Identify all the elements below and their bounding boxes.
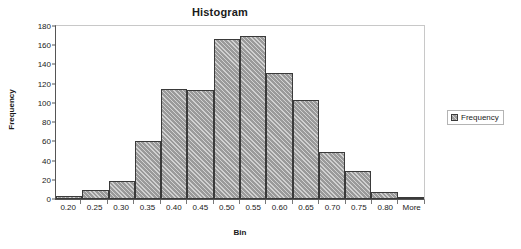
x-axis-tick-label: 0.75 (346, 203, 372, 212)
x-axis-tick-label: 0.20 (55, 203, 81, 212)
histogram-bar[interactable] (82, 190, 108, 199)
x-axis-tick-label: 0.30 (108, 203, 134, 212)
x-axis-tick-label: More (398, 203, 424, 212)
y-axis-tick-label: 120 (38, 79, 51, 88)
x-axis-tick-label: 0.70 (319, 203, 345, 212)
bar-slot (135, 26, 161, 199)
bar-slot (187, 26, 213, 199)
x-axis-tick-label: 0.25 (81, 203, 107, 212)
legend-label: Frequency (461, 113, 499, 122)
histogram-bar[interactable] (345, 171, 371, 199)
x-axis-tick-label: 0.60 (266, 203, 292, 212)
histogram-bar[interactable] (398, 197, 424, 199)
histogram-bar[interactable] (56, 196, 82, 199)
y-axis-tick-label: 160 (38, 41, 51, 50)
bar-slot (398, 26, 424, 199)
bar-slot (266, 26, 292, 199)
histogram-bar[interactable] (109, 181, 135, 199)
bar-slot (293, 26, 319, 199)
bar-slot (109, 26, 135, 199)
y-axis-tick-label: 100 (38, 98, 51, 107)
histogram-bar[interactable] (319, 152, 345, 199)
y-axis-tick-label: 20 (42, 175, 51, 184)
chart-legend: Frequency (447, 110, 504, 125)
x-axis-tick-label: 0.65 (293, 203, 319, 212)
y-axis-tick-label: 180 (38, 22, 51, 31)
histogram-bar[interactable] (293, 100, 319, 199)
histogram-bar[interactable] (266, 73, 292, 199)
bar-slot (161, 26, 187, 199)
x-axis-tick-label: 0.40 (161, 203, 187, 212)
y-axis-tick-label: 140 (38, 60, 51, 69)
x-axis-tick-label: 0.55 (240, 203, 266, 212)
y-axis-tick-label: 60 (42, 137, 51, 146)
histogram-bar[interactable] (240, 36, 266, 199)
bars-layer (56, 26, 424, 199)
histogram-bar[interactable] (214, 39, 240, 199)
bar-slot (240, 26, 266, 199)
bar-slot (371, 26, 397, 199)
y-axis-tick-label: 0 (47, 195, 51, 204)
x-axis-tick-label: 0.35 (134, 203, 160, 212)
x-axis-tick-label: 0.45 (187, 203, 213, 212)
x-axis-tick-label: 0.50 (214, 203, 240, 212)
y-axis-tick-label: 40 (42, 156, 51, 165)
histogram-bar[interactable] (371, 192, 397, 199)
histogram-bar[interactable] (135, 141, 161, 199)
x-axis-tick-labels: 0.200.250.300.350.400.450.500.550.600.65… (55, 203, 425, 212)
plot-area: 020406080100120140160180 (55, 25, 425, 200)
bar-slot (214, 26, 240, 199)
histogram-chart: Histogram Frequency 02040608010012014016… (0, 0, 521, 249)
histogram-bar[interactable] (161, 89, 187, 199)
bar-slot (319, 26, 345, 199)
y-axis-tick-label: 80 (42, 118, 51, 127)
legend-swatch-icon (451, 114, 458, 121)
histogram-bar[interactable] (187, 90, 213, 199)
bar-slot (345, 26, 371, 199)
bar-slot (82, 26, 108, 199)
bar-slot (56, 26, 82, 199)
x-axis-tick-label: 0.80 (372, 203, 398, 212)
chart-title: Histogram (0, 6, 440, 18)
y-axis-title: Frequency (7, 75, 16, 145)
x-axis-title: Bin (55, 228, 425, 237)
